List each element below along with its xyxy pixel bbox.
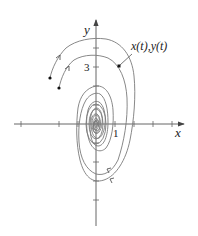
y-tick-label: 3 — [84, 61, 90, 73]
start-point-outer — [48, 76, 51, 79]
x-axis-label: x — [174, 125, 181, 140]
arrow-inner-down-icon — [110, 178, 114, 183]
diagram-svg: y x 1 3 x(t),y(t) — [0, 0, 198, 236]
x-tick-label: 1 — [113, 127, 119, 139]
spiral-phase-diagram: y x 1 3 x(t),y(t) — [0, 0, 198, 236]
trajectory-annotation-label: x(t),y(t) — [130, 39, 167, 53]
start-point-inner — [57, 86, 60, 89]
trajectory-outer — [50, 38, 135, 181]
y-axis-label: y — [82, 22, 90, 37]
trajectories — [50, 38, 135, 181]
